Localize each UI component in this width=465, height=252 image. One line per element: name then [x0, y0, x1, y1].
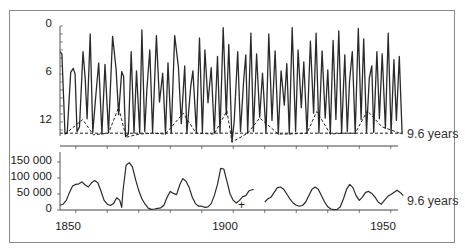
counts-line-segment-2 — [265, 184, 404, 209]
bottom-annotation-period: 9.6 years — [407, 194, 458, 208]
top-annotation-period: 9.6 years — [407, 127, 458, 141]
xtick-1950: 1950 — [370, 220, 396, 232]
gap-plus-marker: + — [238, 198, 245, 212]
chart-plot-area — [0, 0, 465, 252]
top-ytick-12: 12 — [6, 113, 52, 125]
bottom-ytick-150000: 150 000 — [6, 154, 52, 166]
xtick-1850: 1850 — [55, 220, 81, 232]
top-ytick-0: 0 — [6, 17, 52, 29]
top-ytick-6: 6 — [6, 65, 52, 77]
bottom-ytick-100000: 100 000 — [6, 170, 52, 182]
counts-line-segment-1 — [60, 163, 254, 210]
bottom-ytick-50000: 50 000 — [6, 186, 52, 198]
bottom-ytick-0: 0 — [6, 202, 52, 214]
xtick-1900: 1900 — [212, 220, 238, 232]
